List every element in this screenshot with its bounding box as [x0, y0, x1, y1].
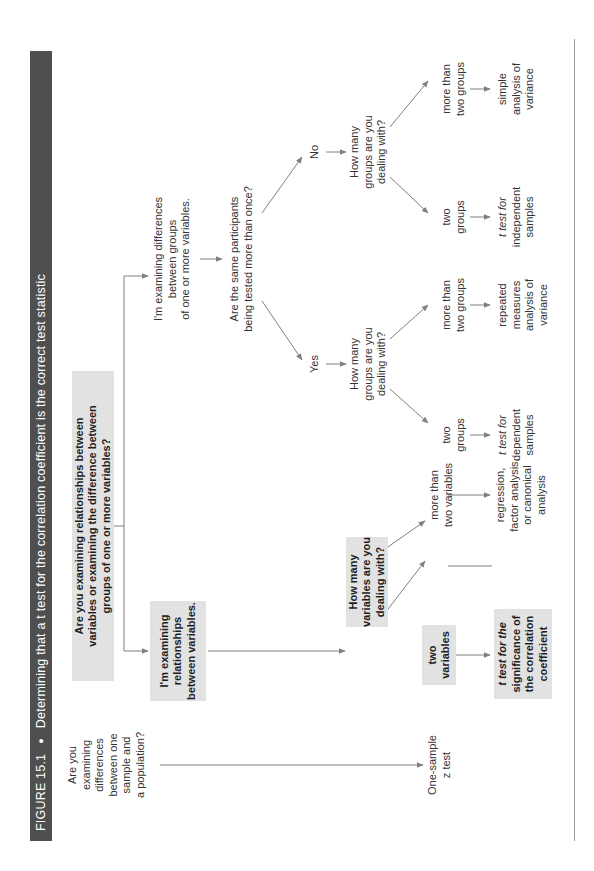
text-line: between groups [166, 187, 180, 331]
answer-yes: Yes [308, 347, 322, 381]
text-line: t test for [496, 403, 510, 467]
answer-no: No [308, 137, 322, 167]
text-line: I'm examining [158, 615, 172, 688]
text-line: Are you [66, 725, 80, 805]
text-line: coefficient [537, 627, 551, 682]
text-line: of one or more variables. [179, 187, 193, 331]
text-line: examining [80, 725, 94, 805]
text-line: How many [348, 323, 362, 405]
text-line: two variables [442, 455, 456, 535]
answer-more-groups-independent: more than two groups [440, 55, 467, 123]
text-line: repeated [496, 269, 510, 341]
text-line: How many [347, 555, 361, 610]
text-line-t: t test for the [496, 622, 508, 686]
text-line: two [426, 646, 440, 665]
text-line: variance [523, 53, 537, 125]
text-line: samples [523, 403, 537, 467]
text-line: variables or examining the difference be… [86, 405, 100, 646]
answer-two-variables: two variables [422, 625, 456, 685]
answer-more-than-two-variables: more than two variables [428, 455, 455, 535]
result-t-test-dependent: t test for dependent samples [496, 403, 537, 467]
question-same-participants: Are the same participants being tested m… [228, 183, 255, 335]
result-repeated-measures-anova: repeated measures analysis of variance [496, 269, 550, 341]
text-line: differences [93, 725, 107, 805]
text-line: groups are you [362, 111, 376, 193]
text-line: analysis of [523, 269, 537, 341]
question-how-many-variables: How many variables are you dealing with? [346, 537, 388, 627]
text-line: being tested more than once? [242, 183, 256, 335]
text-line: dealing with? [374, 547, 388, 617]
result-one-sample-z-test: One-sample z test [426, 729, 453, 801]
text-line: variables are you [360, 537, 374, 627]
text-line: groups of one or more variables? [100, 439, 114, 614]
result-simple-anova: simple analysis of variance [496, 53, 537, 125]
text-line: two [440, 193, 454, 241]
text-line: Are you examining relationships between [73, 418, 87, 635]
text-line: simple [496, 53, 510, 125]
text-line: analysis of [510, 53, 524, 125]
text-line: dealing with? [375, 323, 389, 405]
answer-two-groups-dependent: two groups [440, 411, 467, 459]
text-line: z test [440, 729, 454, 801]
text-line: sample and [120, 725, 134, 805]
text-line: more than [440, 55, 454, 123]
text-line: Yes [308, 347, 322, 381]
text-line: variables [439, 631, 453, 679]
text-line-t: t test for [496, 197, 508, 237]
answer-two-groups-independent: two groups [440, 193, 467, 241]
text-line: dependent [510, 403, 524, 467]
text-line: dealing with? [375, 111, 389, 193]
text-line: groups [454, 193, 468, 241]
text-line: a population? [134, 725, 148, 805]
text-line: two groups [454, 271, 468, 339]
text-line: analysis [535, 449, 549, 541]
answer-differences: I'm examining differences between groups… [152, 187, 193, 331]
flowchart-canvas: FIGURE 15.1 ● Determining that a t test … [0, 0, 594, 871]
text-line: relationships [171, 617, 185, 685]
text-line: groups [454, 411, 468, 459]
text-line: I'm examining differences [152, 187, 166, 331]
text-line: samples [523, 179, 537, 255]
text-line: measures [510, 269, 524, 341]
answer-more-groups-dependent: more than two groups [440, 271, 467, 339]
result-t-test-independent: t test for independent samples [496, 179, 537, 255]
text-line: independent [510, 179, 524, 255]
question-how-many-groups-dependent: How many groups are you dealing with? [348, 323, 389, 405]
text-line: two groups [454, 55, 468, 123]
text-line: One-sample [426, 729, 440, 801]
text-line: more than [440, 271, 454, 339]
text-line: groups are you [362, 323, 376, 405]
text-line: How many [348, 111, 362, 193]
text-line: Are the same participants [228, 183, 242, 335]
text-line: significance of [510, 615, 524, 692]
text-line: variance [537, 269, 551, 341]
bottom-rule-divider [574, 39, 575, 841]
text-line: t test for [496, 179, 510, 255]
text-line: between variables. [185, 602, 199, 700]
question-how-many-groups-independent: How many groups are you dealing with? [348, 111, 389, 193]
text-line: t test for the [496, 622, 510, 686]
text-line: the correlation [523, 616, 537, 692]
result-t-test-correlation: t test for the significance of the corre… [494, 609, 552, 699]
question-relationships-or-differences: Are you examining relationships between … [72, 371, 114, 681]
question-sample-vs-population: Are you examining differences between on… [66, 725, 147, 805]
text-line: two [440, 411, 454, 459]
text-line-t: t test for [496, 415, 508, 455]
text-line: more than [428, 455, 442, 535]
answer-relationships: I'm examining relationships between vari… [150, 601, 206, 701]
text-line: No [308, 137, 322, 167]
text-line: between one [107, 725, 121, 805]
